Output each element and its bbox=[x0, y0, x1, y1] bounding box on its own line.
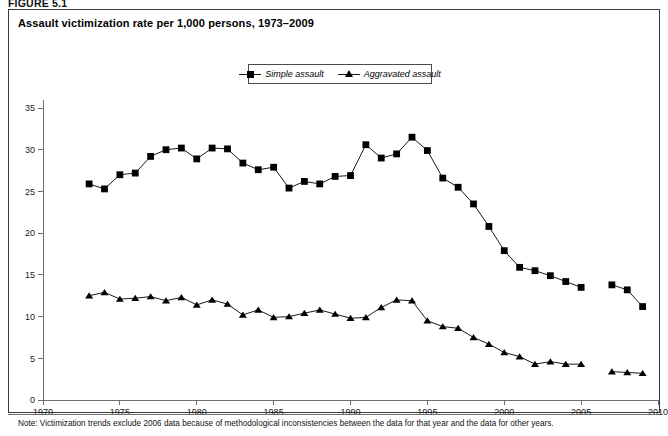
marker-square bbox=[193, 155, 200, 162]
y-tick-label: 25 bbox=[25, 187, 35, 197]
y-tick-label: 5 bbox=[30, 354, 35, 364]
chart-axes: 0510152025303519701975198019851990199520… bbox=[25, 100, 668, 417]
marker-square bbox=[86, 181, 93, 188]
marker-square bbox=[516, 264, 523, 271]
marker-square bbox=[147, 153, 154, 160]
marker-triangle bbox=[546, 358, 554, 364]
marker-square bbox=[116, 171, 123, 178]
marker-square bbox=[624, 286, 631, 293]
marker-square bbox=[501, 247, 508, 254]
marker-triangle bbox=[377, 304, 385, 310]
marker-square bbox=[378, 155, 385, 162]
marker-square bbox=[439, 175, 446, 182]
marker-square bbox=[470, 201, 477, 208]
legend-entry-aggravated-assault[interactable]: Aggravated assault bbox=[338, 69, 441, 79]
marker-triangle bbox=[101, 289, 109, 295]
series-line-simple-assault bbox=[89, 137, 581, 287]
marker-square bbox=[101, 186, 108, 193]
marker-square bbox=[163, 146, 170, 153]
marker-square bbox=[578, 284, 585, 291]
marker-square bbox=[255, 166, 262, 173]
marker-square bbox=[316, 181, 323, 188]
marker-square bbox=[393, 150, 400, 157]
marker-square bbox=[362, 141, 369, 148]
legend-entry-label: Aggravated assault bbox=[364, 69, 441, 79]
marker-triangle bbox=[439, 323, 447, 329]
figure-note-text: Note: Victimization trends exclude 2006 … bbox=[18, 419, 554, 429]
marker-square bbox=[485, 223, 492, 230]
marker-square bbox=[532, 267, 539, 274]
marker-square bbox=[424, 147, 431, 154]
legend-entry-simple-assault[interactable]: Simple assault bbox=[239, 69, 324, 79]
marker-triangle bbox=[470, 334, 478, 340]
marker-triangle bbox=[193, 301, 201, 307]
figure-container: FIGURE 5.1 Assault victimization rate pe… bbox=[0, 0, 668, 436]
marker-triangle bbox=[500, 349, 508, 355]
marker-square bbox=[132, 170, 139, 177]
marker-square bbox=[286, 185, 293, 192]
marker-square bbox=[178, 145, 185, 152]
legend-square-marker-icon bbox=[239, 69, 261, 79]
y-tick-label: 0 bbox=[30, 395, 35, 405]
y-tick-label: 30 bbox=[25, 145, 35, 155]
chart-legend: Simple assaultAggravated assault bbox=[248, 64, 432, 84]
marker-square bbox=[608, 281, 615, 288]
y-tick-label: 35 bbox=[25, 103, 35, 113]
marker-square bbox=[455, 184, 462, 191]
chart-series bbox=[85, 134, 647, 376]
marker-triangle bbox=[147, 293, 155, 299]
y-tick-label: 20 bbox=[25, 228, 35, 238]
marker-square bbox=[562, 278, 569, 285]
marker-triangle bbox=[316, 306, 324, 312]
marker-square bbox=[224, 145, 231, 152]
marker-square bbox=[270, 164, 277, 171]
marker-square bbox=[209, 145, 216, 152]
marker-triangle bbox=[254, 306, 262, 312]
marker-square bbox=[301, 178, 308, 185]
marker-square bbox=[639, 303, 646, 310]
legend-triangle-marker-icon bbox=[338, 69, 360, 79]
marker-square bbox=[347, 172, 354, 179]
y-tick-label: 15 bbox=[25, 270, 35, 280]
marker-square bbox=[332, 173, 339, 180]
marker-triangle bbox=[423, 317, 431, 323]
legend-entry-label: Simple assault bbox=[265, 69, 324, 79]
y-tick-label: 10 bbox=[25, 312, 35, 322]
figure-note-bar: Note: Victimization trends exclude 2006 … bbox=[8, 414, 660, 435]
marker-triangle bbox=[208, 296, 216, 302]
marker-triangle bbox=[485, 341, 493, 347]
marker-square bbox=[239, 160, 246, 167]
marker-square bbox=[409, 134, 416, 141]
marker-triangle bbox=[177, 294, 185, 300]
marker-square bbox=[547, 272, 554, 279]
